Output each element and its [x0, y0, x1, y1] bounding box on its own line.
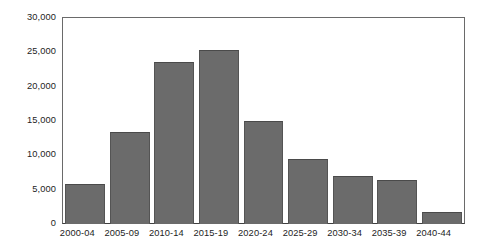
- bar-rect: [377, 180, 417, 224]
- y-axis-tick-label: 15,000: [0, 115, 56, 125]
- bar: [199, 18, 239, 224]
- bar: [244, 18, 284, 224]
- bar-rect: [199, 50, 239, 224]
- x-axis-tick-label: 2040-44: [406, 228, 462, 238]
- bar-rect: [154, 62, 194, 224]
- x-axis: 2000-042005-092010-142015-192020-242025-…: [63, 228, 464, 248]
- bar: [65, 18, 105, 224]
- bar: [288, 18, 328, 224]
- bar-rect: [333, 176, 373, 224]
- y-axis-tick-label: 0: [0, 218, 56, 228]
- y-axis-tick-label: 25,000: [0, 46, 56, 56]
- bar-rect: [65, 184, 105, 225]
- y-axis-tick-label: 30,000: [0, 12, 56, 22]
- bars-group: [63, 18, 464, 224]
- bar-chart: 05,00010,00015,00020,00025,00030,000 200…: [0, 0, 484, 250]
- bar-rect: [288, 159, 328, 224]
- bar: [377, 18, 417, 224]
- bar-rect: [244, 121, 284, 224]
- bar: [333, 18, 373, 224]
- bar-rect: [422, 212, 462, 224]
- y-axis-tick-label: 20,000: [0, 81, 56, 91]
- y-axis-tick-label: 5,000: [0, 184, 56, 194]
- bar: [110, 18, 150, 224]
- bar: [422, 18, 462, 224]
- y-axis-tick-label: 10,000: [0, 149, 56, 159]
- bar: [154, 18, 194, 224]
- bar-rect: [110, 132, 150, 224]
